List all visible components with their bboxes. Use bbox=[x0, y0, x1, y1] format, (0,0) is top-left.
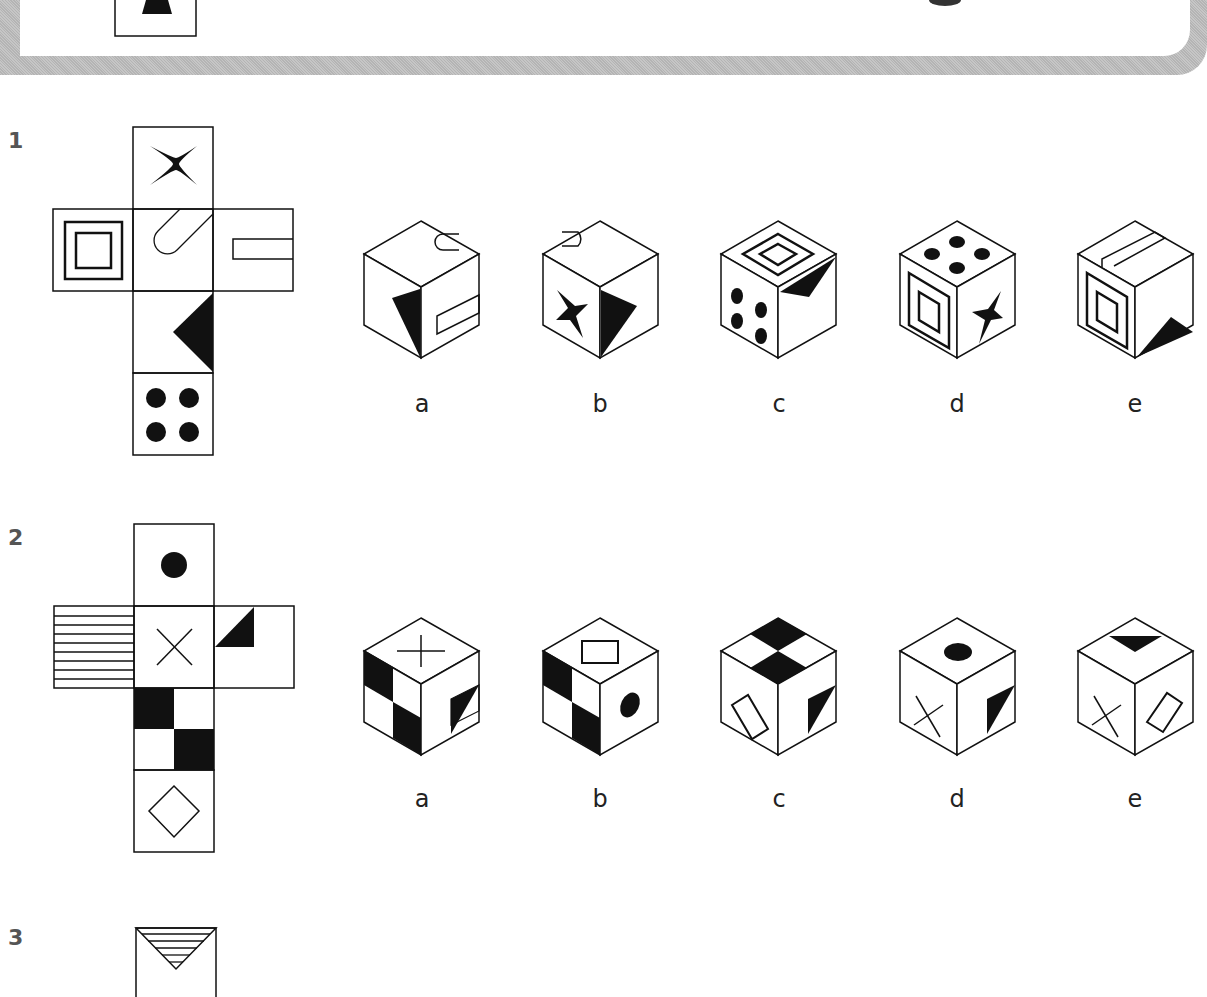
q1-cube-net bbox=[52, 126, 297, 458]
q2-option-b-label[interactable]: b bbox=[580, 785, 620, 813]
star-icon bbox=[150, 146, 197, 185]
q2-option-a-label[interactable]: a bbox=[402, 785, 442, 813]
q2-option-e-label[interactable]: e bbox=[1115, 785, 1155, 813]
q2-option-c-label[interactable]: c bbox=[759, 785, 799, 813]
q2-option-a-cube[interactable] bbox=[363, 617, 483, 757]
question-number: 3 bbox=[8, 925, 23, 950]
q2-option-b-cube[interactable] bbox=[542, 617, 662, 757]
q2-option-d-cube[interactable] bbox=[899, 617, 1019, 757]
q1-option-e-label[interactable]: e bbox=[1115, 390, 1155, 418]
q2-option-c-cube[interactable] bbox=[720, 617, 840, 757]
q2-option-e-cube[interactable] bbox=[1077, 617, 1197, 757]
banner-partial-icon bbox=[925, 0, 965, 8]
q1-option-a-label[interactable]: a bbox=[402, 390, 442, 418]
q1-option-b-label[interactable]: b bbox=[580, 390, 620, 418]
q1-option-d-label[interactable]: d bbox=[937, 390, 977, 418]
q1-option-b-cube[interactable] bbox=[542, 220, 662, 360]
q1-option-d-cube[interactable] bbox=[899, 220, 1019, 360]
banner-example-face bbox=[114, 0, 198, 38]
q1-option-e-cube[interactable] bbox=[1077, 220, 1197, 360]
q3-cube-net-partial bbox=[135, 927, 219, 997]
q2-option-d-label[interactable]: d bbox=[937, 785, 977, 813]
q2-cube-net bbox=[53, 523, 298, 855]
q1-option-a-cube[interactable] bbox=[363, 220, 483, 360]
question-number: 1 bbox=[8, 128, 23, 153]
q1-option-c-label[interactable]: c bbox=[759, 390, 799, 418]
q1-option-c-cube[interactable] bbox=[720, 220, 840, 360]
question-number: 2 bbox=[8, 525, 23, 550]
